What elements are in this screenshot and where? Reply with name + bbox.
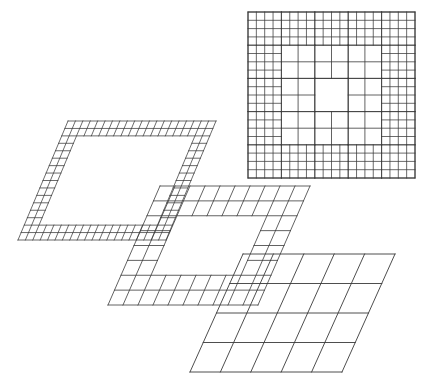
amr-figure	[0, 0, 423, 387]
mesh-diagram-canvas	[0, 0, 423, 387]
medium-grid-patch	[108, 186, 310, 305]
fine-grid-patch	[18, 121, 216, 240]
composite-plan-view	[248, 12, 415, 178]
coarse-grid-patch	[190, 254, 395, 372]
